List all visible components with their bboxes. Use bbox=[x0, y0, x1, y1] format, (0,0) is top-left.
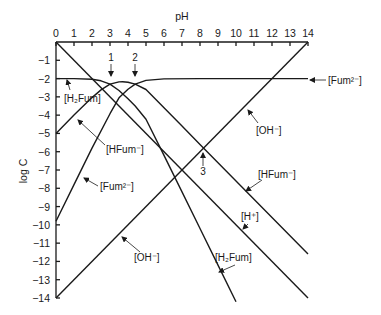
y-tick-label: −4 bbox=[38, 109, 50, 121]
x-tick-label: 10 bbox=[230, 27, 242, 39]
y-tick-label: −2 bbox=[38, 73, 50, 85]
label-h2fum-bottom: [H₂Fum] bbox=[215, 252, 252, 263]
y-tick-label: −5 bbox=[38, 127, 50, 139]
y-tick-label: −13 bbox=[32, 274, 50, 286]
y-tick-label: −12 bbox=[32, 255, 50, 267]
x-tick-label: 9 bbox=[215, 27, 221, 39]
y-tick-label: −11 bbox=[33, 237, 50, 249]
x-tick-label: 5 bbox=[143, 27, 149, 39]
x-ticks: 01234567891011121314 bbox=[53, 27, 314, 46]
pointer-oh-left bbox=[122, 237, 140, 252]
x-tick-label: 12 bbox=[266, 27, 278, 39]
y-tick-label: −9 bbox=[38, 201, 50, 213]
label-oh-left: [OH⁻] bbox=[134, 252, 160, 263]
pointer-h2fum-top bbox=[67, 80, 70, 90]
x-tick-label: 4 bbox=[125, 27, 131, 39]
label-oh-right: [OH⁻] bbox=[256, 125, 282, 136]
pointer-h-right bbox=[243, 224, 248, 229]
x-tick-label: 1 bbox=[71, 27, 77, 39]
label-hfum-left: [HFum⁻] bbox=[106, 144, 144, 155]
x-tick-label: 13 bbox=[284, 27, 296, 39]
y-tick-label: −6 bbox=[38, 146, 50, 158]
point-markers: 1 2 3 bbox=[108, 52, 206, 177]
y-axis-title: log C bbox=[17, 158, 29, 183]
y-tick-label: −14 bbox=[32, 292, 50, 304]
curve-h2fum bbox=[56, 79, 236, 302]
point-2-label: 2 bbox=[132, 52, 138, 63]
point-3-label: 3 bbox=[200, 166, 206, 177]
label-h2fum-top: [H₂Fum] bbox=[64, 93, 101, 104]
x-tick-label: 14 bbox=[302, 27, 314, 39]
curve-labels: [H₂Fum] [HFum⁻] [Fum²⁻] [OH⁻] [Fum²⁻] [O… bbox=[64, 75, 362, 272]
pointer-hfum-right bbox=[246, 180, 262, 191]
x-axis-title: pH bbox=[175, 10, 188, 22]
y-tick-label: −8 bbox=[38, 182, 50, 194]
x-tick-label: 0 bbox=[53, 27, 59, 39]
label-fum-left: [Fum²⁻] bbox=[100, 181, 134, 192]
x-tick-label: 7 bbox=[179, 27, 185, 39]
label-fum-right: [Fum²⁻] bbox=[328, 75, 362, 86]
curve-hfum bbox=[56, 82, 308, 254]
y-tick-label: −1 bbox=[38, 54, 50, 66]
x-tick-label: 6 bbox=[161, 27, 167, 39]
log-concentration-diagram: 01234567891011121314 −1−2−3−4−5−6−7−8−9−… bbox=[0, 0, 381, 315]
x-tick-label: 11 bbox=[249, 27, 260, 39]
pointer-h2fum-bottom bbox=[219, 265, 235, 272]
pointer-oh-right bbox=[248, 110, 258, 123]
pointer-fum-left bbox=[84, 178, 98, 186]
label-h-right: [H⁺] bbox=[241, 211, 259, 222]
x-tick-label: 2 bbox=[89, 27, 95, 39]
point-1-label: 1 bbox=[108, 52, 114, 63]
y-tick-label: −10 bbox=[32, 219, 50, 231]
x-tick-label: 8 bbox=[197, 27, 203, 39]
axes: 01234567891011121314 −1−2−3−4−5−6−7−8−9−… bbox=[32, 27, 314, 304]
y-tick-label: −7 bbox=[38, 164, 50, 176]
x-tick-label: 3 bbox=[107, 27, 113, 39]
label-hfum-right: [HFum⁻] bbox=[258, 169, 296, 180]
y-tick-label: −3 bbox=[38, 91, 50, 103]
